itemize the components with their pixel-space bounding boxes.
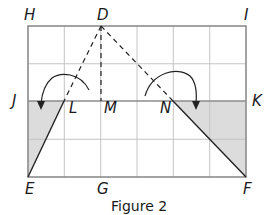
label-i: I — [244, 6, 249, 24]
label-j: J — [9, 92, 16, 110]
label-m: M — [104, 99, 117, 117]
label-g: G — [97, 180, 109, 198]
label-l: L — [69, 99, 77, 117]
label-h: H — [24, 6, 35, 24]
figure-caption: Figure 2 — [111, 198, 167, 214]
geometry-figure: H D I J L M N K E G F Figure 2 — [0, 0, 266, 215]
label-k: K — [252, 92, 263, 110]
label-f: F — [243, 180, 252, 198]
label-d: D — [97, 6, 109, 24]
label-e: E — [25, 180, 35, 198]
label-n: N — [160, 99, 171, 117]
